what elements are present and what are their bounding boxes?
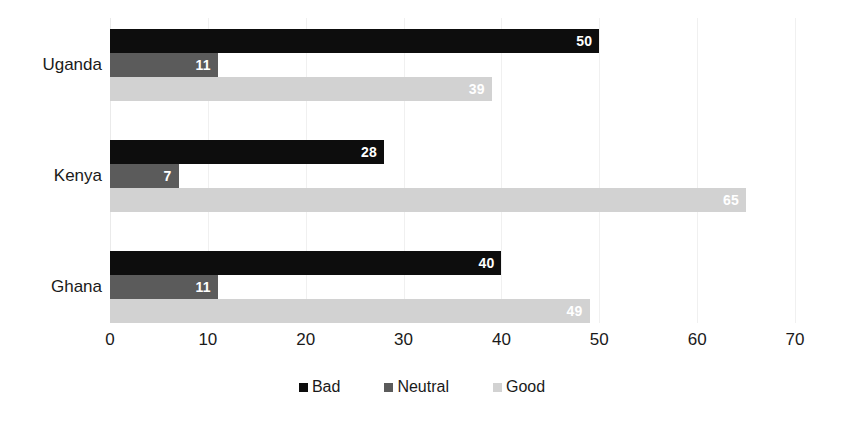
bar-bad[interactable]: 50 xyxy=(110,29,599,53)
bar-value-label: 65 xyxy=(723,193,746,207)
legend-item-bad[interactable]: Bad xyxy=(299,378,340,396)
legend-label: Bad xyxy=(312,378,340,396)
bar-group: 28765 xyxy=(110,140,795,212)
legend-label: Good xyxy=(506,378,545,396)
legend-swatch-icon xyxy=(299,383,308,392)
x-tick-label: 50 xyxy=(590,330,609,350)
x-tick-label: 10 xyxy=(198,330,217,350)
x-tick-label: 30 xyxy=(394,330,413,350)
bar-neutral[interactable]: 11 xyxy=(110,275,218,299)
bar-group: 401149 xyxy=(110,251,795,323)
bar-value-label: 11 xyxy=(195,58,217,72)
legend-swatch-icon xyxy=(384,383,393,392)
bar-value-label: 7 xyxy=(164,169,179,183)
bar-bad[interactable]: 40 xyxy=(110,251,501,275)
x-tick-label: 20 xyxy=(296,330,315,350)
gridline xyxy=(795,18,796,323)
category-label-uganda: Uganda xyxy=(2,55,102,75)
x-tick-label: 70 xyxy=(786,330,805,350)
category-label-kenya: Kenya xyxy=(2,166,102,186)
bar-chart: UgandaKenyaGhana 50113928765401149 01020… xyxy=(0,0,844,429)
bar-value-label: 40 xyxy=(478,256,501,270)
legend-item-good[interactable]: Good xyxy=(493,378,545,396)
bar-good[interactable]: 39 xyxy=(110,77,492,101)
bar-value-label: 28 xyxy=(361,145,384,159)
bar-value-label: 50 xyxy=(576,34,599,48)
legend-swatch-icon xyxy=(493,383,502,392)
bar-value-label: 39 xyxy=(469,82,492,96)
x-tick-label: 0 xyxy=(105,330,114,350)
bar-bad[interactable]: 28 xyxy=(110,140,384,164)
legend-label: Neutral xyxy=(397,378,449,396)
bar-group: 501139 xyxy=(110,29,795,101)
category-axis: UgandaKenyaGhana xyxy=(0,18,102,323)
bar-good[interactable]: 65 xyxy=(110,188,746,212)
x-axis: 010203040506070 xyxy=(110,326,795,356)
legend-item-neutral[interactable]: Neutral xyxy=(384,378,449,396)
category-label-ghana: Ghana xyxy=(2,277,102,297)
bar-neutral[interactable]: 11 xyxy=(110,53,218,77)
bar-neutral[interactable]: 7 xyxy=(110,164,179,188)
plot-area: 50113928765401149 xyxy=(110,18,795,323)
bar-value-label: 49 xyxy=(567,304,590,318)
chart-legend: BadNeutralGood xyxy=(0,378,844,396)
x-tick-label: 60 xyxy=(688,330,707,350)
bar-good[interactable]: 49 xyxy=(110,299,590,323)
bar-value-label: 11 xyxy=(195,280,217,294)
x-tick-label: 40 xyxy=(492,330,511,350)
